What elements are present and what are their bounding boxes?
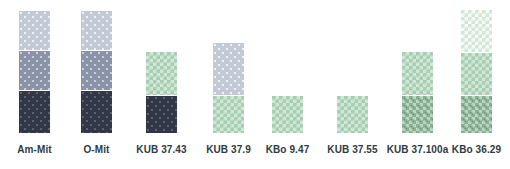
bar-segment-pale-green xyxy=(461,10,492,52)
bar-segment-mid-green xyxy=(461,52,492,95)
bar-segment-dark-navy xyxy=(81,90,112,133)
bar-segment-mid-blue-gray xyxy=(81,50,112,90)
bar-column xyxy=(337,96,368,133)
bar-segment-light-gray xyxy=(81,11,112,50)
bar-segment-mid-green xyxy=(402,52,433,95)
bar-segment-light-gray xyxy=(19,11,50,50)
bar-column xyxy=(19,11,50,133)
bar-column xyxy=(402,52,433,133)
bar-column xyxy=(146,52,177,133)
bar-segment-mid-blue-gray xyxy=(19,50,50,90)
bar-column xyxy=(272,96,303,133)
stacked-bar-chart: Am-MitO-MitKUB 37.43KUB 37.9KBo 9.47KUB … xyxy=(0,0,510,169)
bar-segment-dark-green-check xyxy=(461,95,492,133)
bar-segment-mid-green xyxy=(272,96,303,133)
bar-segment-dark-green-check xyxy=(402,95,433,133)
bar-column xyxy=(461,10,492,133)
bar-column xyxy=(213,43,244,133)
bar-segment-mid-green xyxy=(213,95,244,133)
bar-segment-dark-navy xyxy=(19,90,50,133)
bar-column xyxy=(81,11,112,133)
bar-segment-light-gray xyxy=(213,43,244,95)
bar-segment-mid-green xyxy=(337,96,368,133)
bar-segment-mid-green xyxy=(146,52,177,95)
bar-segment-dark-navy xyxy=(146,95,177,133)
x-axis-label: KBo 36.29 xyxy=(427,144,510,155)
